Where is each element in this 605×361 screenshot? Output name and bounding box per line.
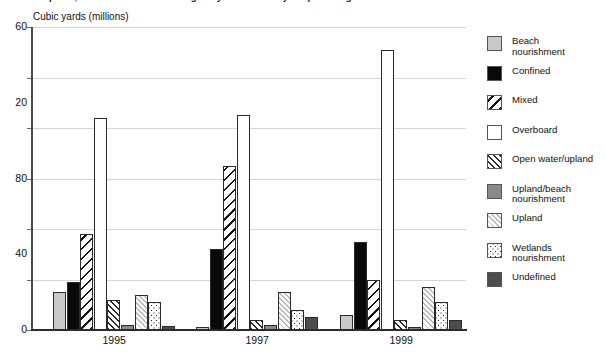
legend-item[interactable]: Mixed bbox=[487, 95, 603, 117]
legend-swatch-icon bbox=[487, 213, 502, 228]
chart-legend: Beach nourishmentConfinedMixedOverboardO… bbox=[487, 36, 603, 302]
bar bbox=[449, 320, 462, 330]
legend-item-label: Undefined bbox=[512, 272, 556, 283]
legend-swatch-icon bbox=[487, 125, 502, 140]
x-axis-tick-label: 1999 bbox=[390, 334, 413, 346]
x-axis-tick-label: 1995 bbox=[103, 334, 126, 346]
bar bbox=[237, 115, 250, 330]
bar bbox=[80, 234, 93, 330]
legend-item-label: Mixed bbox=[512, 95, 538, 106]
bar bbox=[264, 325, 277, 330]
bar bbox=[305, 317, 318, 330]
legend-item[interactable]: Wetlands nourishment bbox=[487, 243, 603, 265]
y-axis-tick-labels: 602080400 bbox=[0, 27, 27, 330]
legend-item[interactable]: Upland/beach nourishment bbox=[487, 184, 603, 206]
legend-item-label: Wetlands nourishment bbox=[512, 243, 565, 264]
legend-item-label: Upland bbox=[512, 213, 542, 224]
legend-item[interactable]: Upland bbox=[487, 213, 603, 235]
legend-item[interactable]: Overboard bbox=[487, 125, 603, 147]
bar bbox=[422, 287, 435, 330]
bar bbox=[135, 295, 148, 330]
y-axis-tick-label: 0 bbox=[3, 323, 27, 335]
bars-layer bbox=[33, 27, 466, 330]
legend-item[interactable]: Undefined bbox=[487, 272, 603, 294]
bar bbox=[210, 249, 223, 330]
legend-swatch-icon bbox=[487, 184, 502, 199]
bar bbox=[278, 292, 291, 330]
bar bbox=[367, 280, 380, 331]
legend-item-label: Beach nourishment bbox=[512, 36, 565, 57]
bar bbox=[250, 320, 263, 330]
bar bbox=[354, 242, 367, 330]
bar bbox=[53, 292, 66, 330]
bar bbox=[94, 118, 107, 330]
legend-swatch-icon bbox=[487, 154, 502, 169]
bar bbox=[394, 320, 407, 330]
legend-swatch-icon bbox=[487, 272, 502, 287]
bar bbox=[196, 327, 209, 330]
bar bbox=[381, 50, 394, 330]
legend-item-label: Upland/beach nourishment bbox=[512, 184, 571, 205]
bar bbox=[435, 302, 448, 330]
legend-item[interactable]: Confined bbox=[487, 66, 603, 88]
bar bbox=[291, 310, 304, 330]
legend-swatch-icon bbox=[487, 95, 502, 110]
bar bbox=[340, 315, 353, 330]
legend-item[interactable]: Open water/upland bbox=[487, 154, 603, 176]
bar bbox=[408, 327, 421, 330]
y-axis-tick-label: 60 bbox=[3, 20, 27, 32]
legend-item[interactable]: Beach nourishment bbox=[487, 36, 603, 58]
bar bbox=[223, 166, 236, 330]
y-axis-tick-label: 80 bbox=[3, 172, 27, 184]
legend-item-label: Overboard bbox=[512, 125, 557, 136]
legend-swatch-icon bbox=[487, 36, 502, 51]
bar bbox=[148, 302, 161, 330]
x-axis-tick-label: 1997 bbox=[246, 334, 269, 346]
bar bbox=[107, 300, 120, 330]
legend-swatch-icon bbox=[487, 243, 502, 258]
bar bbox=[67, 282, 80, 330]
bar bbox=[121, 325, 134, 330]
legend-item-label: Confined bbox=[512, 66, 550, 77]
chart-title: Disposal, 1995-1999: amount dredged by t… bbox=[34, 0, 374, 3]
y-axis-title: Cubic yards (millions) bbox=[33, 11, 129, 22]
y-axis-tick-label: 20 bbox=[3, 96, 27, 108]
legend-item-label: Open water/upland bbox=[512, 154, 593, 165]
bar bbox=[162, 326, 175, 330]
legend-swatch-icon bbox=[487, 66, 502, 81]
y-axis-tick-label: 40 bbox=[3, 247, 27, 259]
x-axis-tick-labels: 199519971999 bbox=[31, 334, 467, 354]
